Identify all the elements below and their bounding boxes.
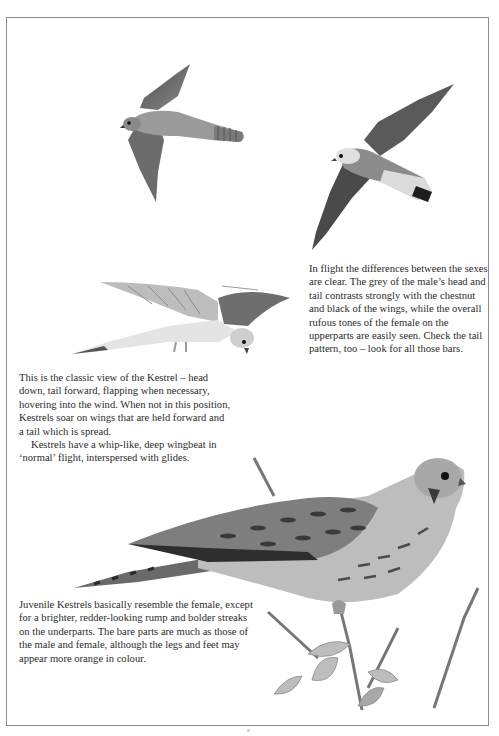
page-mark [247,729,250,732]
male-kestrel-flight-illustration [308,82,458,254]
caption-juvenile: Juvenile Kestrels basically resemble the… [19,598,259,665]
caption-flight-sexes-paragraph: In flight the differences between the se… [309,262,489,356]
kestrel-hovering-illustration [68,276,300,360]
caption-hovering-paragraph-1: This is the classic view of the Kestrel … [19,371,231,438]
caption-hovering-paragraph-2: Kestrels have a whip-like, deep wingbeat… [19,438,231,465]
caption-juvenile-paragraph: Juvenile Kestrels basically resemble the… [19,598,259,665]
caption-hovering: This is the classic view of the Kestrel … [19,371,231,465]
caption-flight-sexes: In flight the differences between the se… [309,262,489,356]
female-kestrel-flight-illustration [118,60,248,210]
juvenile-kestrel-perched-illustration [68,448,488,718]
